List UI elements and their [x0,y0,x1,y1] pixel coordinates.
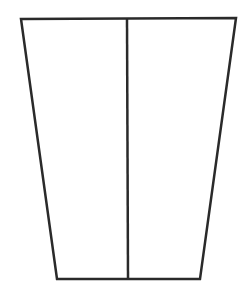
trapezoid-diagram [0,0,246,292]
vertical-divider-line [127,19,128,279]
